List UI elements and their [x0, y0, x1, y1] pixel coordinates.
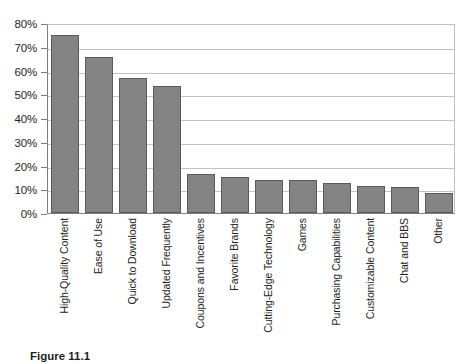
y-axis-tick-label: 10% [15, 182, 37, 198]
y-axis-tick-mark [41, 214, 47, 215]
bar-slot [357, 23, 385, 213]
y-axis-tick-label: 40% [15, 111, 37, 127]
x-axis-label-slot: Chat and BBS [390, 218, 418, 336]
figure-caption: Figure 11.1 [30, 350, 90, 363]
y-axis-tick-label: 80% [15, 16, 37, 32]
y-axis-tick-label: 30% [15, 135, 37, 151]
x-axis-label-slot: Coupons and Incentives [186, 218, 214, 336]
x-axis-label-slot: Other [424, 218, 452, 336]
bar[interactable] [289, 180, 317, 213]
x-axis-label-slot: Games [288, 218, 316, 336]
bar-slot [85, 23, 113, 213]
x-axis-label: Games [296, 218, 308, 251]
bar[interactable] [51, 35, 79, 213]
y-axis-tick-label: 20% [15, 159, 37, 175]
bar-slot [255, 23, 283, 213]
bar[interactable] [85, 57, 113, 213]
y-axis-tick-label: 50% [15, 87, 37, 103]
plot-area [47, 24, 455, 214]
bar-slot [425, 23, 453, 213]
y-axis-tick-label: 70% [15, 40, 37, 56]
x-axis-label: Updated Frequently [160, 218, 172, 308]
bar[interactable] [323, 183, 351, 213]
bar[interactable] [153, 86, 181, 213]
bar[interactable] [221, 177, 249, 213]
x-axis-label-slot: Ease of Use [84, 218, 112, 336]
x-axis-label: Purchasing Capabilities [330, 218, 342, 325]
x-axis-label: High-Quality Content [58, 218, 70, 313]
x-axis-label-slot: Cutting-Edge Technology [254, 218, 282, 336]
bar-slot [119, 23, 147, 213]
bar-series [48, 25, 454, 213]
x-axis-label: Quick to Download [126, 218, 138, 304]
x-axis-label-slot: Customizable Content [356, 218, 384, 336]
bar[interactable] [425, 193, 453, 213]
bar[interactable] [391, 187, 419, 213]
bar[interactable] [119, 78, 147, 213]
x-axis-label-slot: Purchasing Capabilities [322, 218, 350, 336]
bar[interactable] [357, 186, 385, 213]
figure-container: 80%70%60%50%40%30%20%10%0% High-Quality … [0, 0, 468, 363]
bar[interactable] [255, 180, 283, 213]
bar-slot [187, 23, 215, 213]
bar-slot [221, 23, 249, 213]
bar-slot [391, 23, 419, 213]
bar-slot [51, 23, 79, 213]
x-axis-label: Ease of Use [92, 218, 104, 274]
bar-slot [153, 23, 181, 213]
y-axis: 80%70%60%50%40%30%20%10%0% [0, 0, 47, 240]
x-axis-label-slot: Quick to Download [118, 218, 146, 336]
x-axis-category-labels: High-Quality ContentEase of UseQuick to … [47, 218, 455, 338]
x-axis-label-slot: Updated Frequently [152, 218, 180, 336]
bar-slot [289, 23, 317, 213]
y-axis-tick-label: 60% [15, 64, 37, 80]
x-axis-label-slot: Favorite Brands [220, 218, 248, 336]
x-axis-label: Cutting-Edge Technology [262, 218, 274, 333]
x-axis-label: Coupons and Incentives [194, 218, 206, 328]
bar[interactable] [187, 174, 215, 213]
bar-slot [323, 23, 351, 213]
x-axis-label: Favorite Brands [228, 218, 240, 291]
x-axis-label: Other [432, 218, 444, 244]
y-axis-tick-label: 0% [21, 206, 37, 222]
x-axis-label: Chat and BBS [398, 218, 410, 283]
x-axis-label-slot: High-Quality Content [50, 218, 78, 336]
x-axis-label: Customizable Content [364, 218, 376, 319]
